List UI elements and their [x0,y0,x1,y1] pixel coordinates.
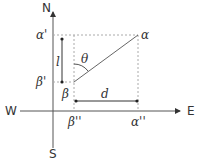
distance-d-label: d [101,88,109,100]
south-label: S [49,148,57,160]
north-label: N [42,2,51,14]
alpha-label: α [141,29,149,41]
beta-double-prime-label: β'' [68,116,82,128]
west-label: W [5,105,17,117]
theta-label: θ [81,53,88,65]
alpha-prime-label: α' [36,29,47,41]
beta-prime-label: β' [36,76,46,88]
length-l-label: l [56,56,60,68]
alpha-double-prime-label: α'' [131,116,146,128]
diagram-canvas [0,0,200,164]
beta-label: β [62,88,69,100]
east-label: E [187,105,195,117]
